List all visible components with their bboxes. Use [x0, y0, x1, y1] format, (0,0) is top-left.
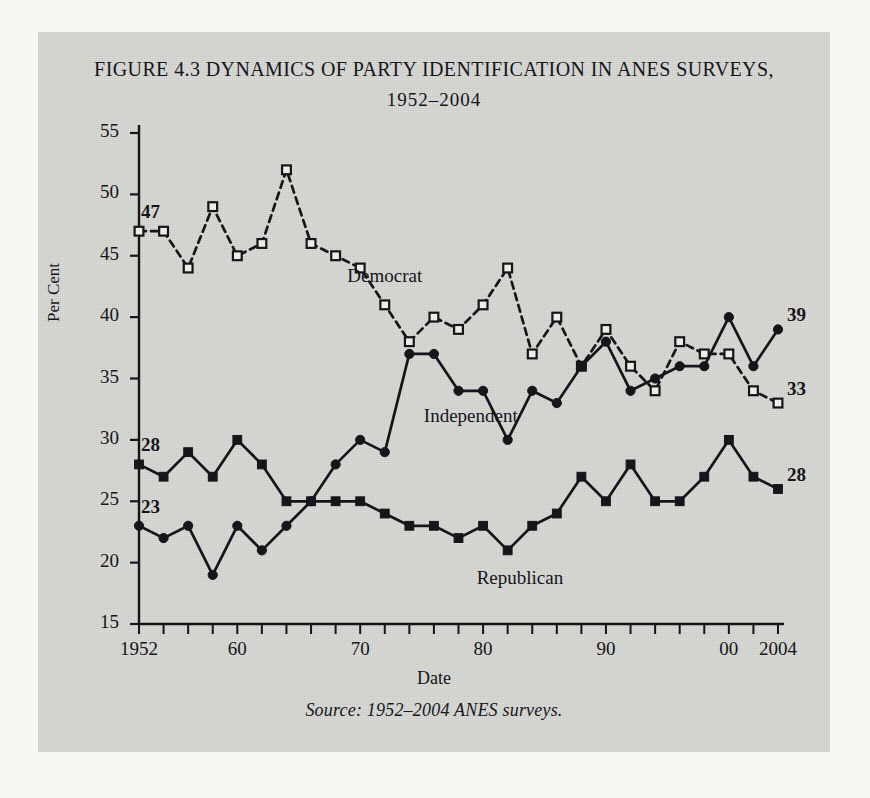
x-axis-tick-label: 80 [448, 638, 518, 660]
data-point-open-square [651, 386, 660, 395]
data-point-open-square [528, 350, 537, 359]
data-point-open-square [724, 350, 733, 359]
data-point-open-square [208, 202, 217, 211]
end-value-label-democrat: 33 [787, 378, 806, 400]
start-value-label-democrat: 47 [141, 201, 160, 223]
data-point-open-square [626, 362, 635, 371]
data-point-filled-square [257, 460, 266, 469]
data-point-filled-square [479, 521, 488, 530]
data-point-open-square [430, 313, 439, 322]
start-value-label-republican: 28 [141, 434, 160, 456]
series-annotation-independent: Independent [424, 405, 518, 427]
data-point-filled-circle [478, 386, 487, 395]
data-point-filled-square [503, 546, 512, 555]
data-point-filled-square [233, 435, 242, 444]
y-axis-tick-label: 50 [75, 181, 119, 203]
figure-page: FIGURE 4.3 DYNAMICS OF PARTY IDENTIFICAT… [0, 0, 870, 798]
data-point-filled-square [282, 497, 291, 506]
data-point-open-square [675, 337, 684, 346]
data-point-filled-square [577, 472, 586, 481]
data-point-filled-circle [503, 435, 512, 444]
data-point-filled-circle [380, 448, 389, 457]
x-axis-tick-label: 2004 [743, 638, 813, 660]
data-point-filled-square [159, 472, 168, 481]
start-value-label-independent: 23 [141, 496, 160, 518]
data-point-filled-circle [724, 313, 733, 322]
data-point-filled-circle [749, 362, 758, 371]
y-axis-tick-label: 55 [75, 120, 119, 142]
y-axis-tick-label: 25 [75, 488, 119, 510]
data-point-open-square [184, 264, 193, 273]
y-axis-tick-label: 35 [75, 366, 119, 388]
data-point-filled-square [651, 497, 660, 506]
data-point-filled-circle [429, 349, 438, 358]
x-axis-tick-label: 1952 [104, 638, 174, 660]
data-point-filled-square [528, 521, 537, 530]
y-axis-tick-label: 30 [75, 427, 119, 449]
data-point-filled-circle [651, 374, 660, 383]
data-point-filled-circle [552, 398, 561, 407]
data-point-open-square [233, 251, 242, 260]
data-point-filled-circle [184, 521, 193, 530]
data-point-filled-square [749, 472, 758, 481]
data-point-filled-circle [601, 337, 610, 346]
source-note: Source: 1952–2004 ANES surveys. [38, 700, 830, 721]
data-point-filled-square [626, 460, 635, 469]
data-point-filled-circle [773, 325, 782, 334]
data-point-open-square [700, 350, 709, 359]
data-point-open-square [257, 239, 266, 248]
data-point-filled-square [356, 497, 365, 506]
figure-panel: FIGURE 4.3 DYNAMICS OF PARTY IDENTIFICAT… [38, 32, 830, 752]
data-point-filled-circle [577, 362, 586, 371]
data-point-filled-circle [700, 362, 709, 371]
data-point-filled-square [430, 521, 439, 530]
data-point-filled-circle [257, 546, 266, 555]
data-point-filled-square [675, 497, 684, 506]
data-point-open-square [503, 264, 512, 273]
data-point-open-square [405, 337, 414, 346]
data-point-filled-square [405, 521, 414, 530]
data-point-open-square [602, 325, 611, 334]
data-point-open-square [454, 325, 463, 334]
data-point-open-square [282, 165, 291, 174]
data-point-filled-circle [626, 386, 635, 395]
x-axis-tick-label: 60 [202, 638, 272, 660]
end-value-label-independent: 39 [787, 304, 806, 326]
data-point-open-square [159, 227, 168, 236]
data-point-filled-circle [159, 533, 168, 542]
data-point-open-square [331, 251, 340, 260]
data-point-filled-square [208, 472, 217, 481]
data-point-filled-square [380, 509, 389, 518]
y-axis-tick-label: 45 [75, 243, 119, 265]
data-point-filled-square [331, 497, 340, 506]
series-annotation-republican: Republican [477, 567, 564, 589]
data-point-filled-circle [675, 362, 684, 371]
x-axis-tick-label: 90 [571, 638, 641, 660]
data-point-filled-circle [405, 349, 414, 358]
data-point-filled-circle [233, 521, 242, 530]
series-annotation-democrat: Democrat [347, 265, 422, 287]
data-point-filled-square [454, 534, 463, 543]
data-point-filled-square [700, 472, 709, 481]
data-point-filled-square [184, 448, 193, 457]
data-point-open-square [774, 399, 783, 408]
data-point-filled-square [724, 435, 733, 444]
data-point-open-square [552, 313, 561, 322]
data-point-filled-square [774, 485, 783, 494]
data-point-filled-circle [134, 521, 143, 530]
data-point-filled-circle [208, 570, 217, 579]
data-point-open-square [479, 300, 488, 309]
end-value-label-republican: 28 [787, 464, 806, 486]
data-point-open-square [135, 227, 144, 236]
data-point-open-square [380, 300, 389, 309]
y-axis-tick-label: 40 [75, 304, 119, 326]
y-axis-tick-label: 20 [75, 550, 119, 572]
data-point-open-square [307, 239, 316, 248]
data-point-filled-square [307, 497, 316, 506]
chart-plot-area: Per Cent Date 15202530354045505519526070… [38, 32, 830, 752]
x-axis-tick-label: 70 [325, 638, 395, 660]
data-point-filled-square [135, 460, 144, 469]
data-point-open-square [749, 386, 758, 395]
data-point-filled-circle [356, 435, 365, 444]
data-point-filled-square [602, 497, 611, 506]
